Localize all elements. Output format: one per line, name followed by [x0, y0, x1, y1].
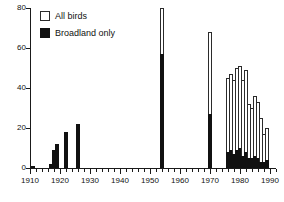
x-axis-minor-tick — [84, 169, 85, 172]
x-axis-minor-tick — [228, 169, 229, 172]
legend-item-broadland-only: Broadland only — [40, 26, 115, 40]
x-axis-minor-tick — [276, 169, 277, 172]
chart-bar — [76, 124, 80, 168]
x-axis-tick-label: 1970 — [201, 176, 219, 185]
x-axis-minor-tick — [204, 169, 205, 172]
legend-swatch-open-square-icon — [40, 11, 50, 21]
x-axis-minor-tick — [144, 169, 145, 172]
y-axis-tick-label: 0 — [4, 164, 26, 172]
y-axis-tick-label: 20 — [4, 124, 26, 132]
legend-swatch-filled-square-icon — [40, 28, 50, 38]
bar-segment-broadland-only — [31, 166, 35, 168]
x-axis-minor-tick — [198, 169, 199, 172]
x-axis-minor-tick — [66, 169, 67, 172]
chart-bar — [208, 32, 212, 168]
y-axis-tick-label: 80 — [4, 4, 26, 12]
chart-bar — [265, 128, 269, 168]
x-axis-minor-tick — [54, 169, 55, 172]
x-axis-minor-tick — [174, 169, 175, 172]
x-axis-tick-label: 1910 — [21, 176, 39, 185]
x-axis-minor-tick — [222, 169, 223, 172]
bar-segment-broadland-only — [208, 114, 212, 168]
x-axis-minor-tick — [234, 169, 235, 172]
x-axis-major-tick — [180, 169, 181, 174]
bar-segment-broadland-only — [265, 160, 269, 168]
bar-segment-broadland-only — [55, 144, 59, 168]
x-axis-major-tick — [210, 169, 211, 174]
x-axis-minor-tick — [96, 169, 97, 172]
bird-counts-bar-chart: 020406080 191019201930194019501960197019… — [0, 0, 284, 202]
x-axis-minor-tick — [36, 169, 37, 172]
bar-segment-broadland-only — [64, 132, 68, 168]
x-axis-minor-tick — [258, 169, 259, 172]
x-axis-minor-tick — [78, 169, 79, 172]
x-axis-major-tick — [150, 169, 151, 174]
x-axis-tick-label: 1940 — [111, 176, 129, 185]
x-axis-tick-label: 1960 — [171, 176, 189, 185]
x-axis-minor-tick — [108, 169, 109, 172]
x-axis-major-tick — [240, 169, 241, 174]
x-axis-tick-label: 1950 — [141, 176, 159, 185]
bar-segment-broadland-only — [160, 54, 164, 168]
x-axis-minor-tick — [216, 169, 217, 172]
chart-legend: All birds Broadland only — [40, 9, 115, 43]
x-axis-tick-label: 1920 — [51, 176, 69, 185]
x-axis-minor-tick — [48, 169, 49, 172]
x-axis-minor-tick — [186, 169, 187, 172]
chart-bar — [31, 166, 35, 168]
legend-label-all-birds: All birds — [55, 11, 87, 21]
x-axis-minor-tick — [72, 169, 73, 172]
x-axis-minor-tick — [114, 169, 115, 172]
chart-bar — [160, 8, 164, 168]
x-axis-minor-tick — [168, 169, 169, 172]
x-axis-minor-tick — [192, 169, 193, 172]
legend-item-all-birds: All birds — [40, 9, 115, 23]
x-axis-tick-label: 1980 — [231, 176, 249, 185]
y-axis-tick-label: 40 — [4, 84, 26, 92]
x-axis-major-tick — [30, 169, 31, 174]
legend-label-broadland-only: Broadland only — [55, 28, 115, 38]
x-axis-minor-tick — [246, 169, 247, 172]
y-axis-tick-label: 60 — [4, 44, 26, 52]
chart-bar — [55, 144, 59, 168]
x-axis-minor-tick — [138, 169, 139, 172]
x-axis-major-tick — [270, 169, 271, 174]
x-axis-minor-tick — [42, 169, 43, 172]
x-axis-minor-tick — [252, 169, 253, 172]
x-axis-minor-tick — [102, 169, 103, 172]
x-axis-minor-tick — [126, 169, 127, 172]
x-axis-tick-label: 1930 — [81, 176, 99, 185]
x-axis-major-tick — [120, 169, 121, 174]
x-axis-minor-tick — [156, 169, 157, 172]
x-axis-major-tick — [60, 169, 61, 174]
x-axis-major-tick — [90, 169, 91, 174]
x-axis-minor-tick — [264, 169, 265, 172]
x-axis-minor-tick — [132, 169, 133, 172]
bar-segment-broadland-only — [76, 124, 80, 168]
x-axis-tick-label: 1990 — [261, 176, 279, 185]
chart-bar — [64, 132, 68, 168]
x-axis-minor-tick — [162, 169, 163, 172]
